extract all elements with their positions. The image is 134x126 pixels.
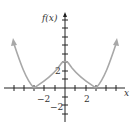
arrow-left-icon [11, 38, 17, 46]
arrow-right-icon [113, 38, 119, 46]
y-axis-arrow-icon [63, 12, 67, 17]
x-tick-label-neg2: −2 [37, 94, 50, 104]
x-axis-label: x [124, 88, 129, 98]
y-tick-label-neg2: −2 [50, 102, 63, 112]
function-graph: f(x) x −2 2 2 −2 [0, 0, 134, 126]
x-tick-label-pos2: 2 [84, 94, 90, 104]
y-tick-label-pos2: 2 [55, 66, 61, 76]
y-axis-label: f(x) [41, 13, 58, 23]
